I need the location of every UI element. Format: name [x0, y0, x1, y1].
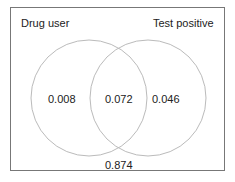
drug-user-only-value: 0.008 [48, 93, 76, 105]
outside-value: 0.874 [105, 159, 133, 171]
intersection-value: 0.072 [105, 93, 133, 105]
test-positive-label: Test positive [153, 17, 214, 29]
test-positive-only-value: 0.046 [152, 93, 180, 105]
drug-user-label: Drug user [21, 17, 69, 29]
